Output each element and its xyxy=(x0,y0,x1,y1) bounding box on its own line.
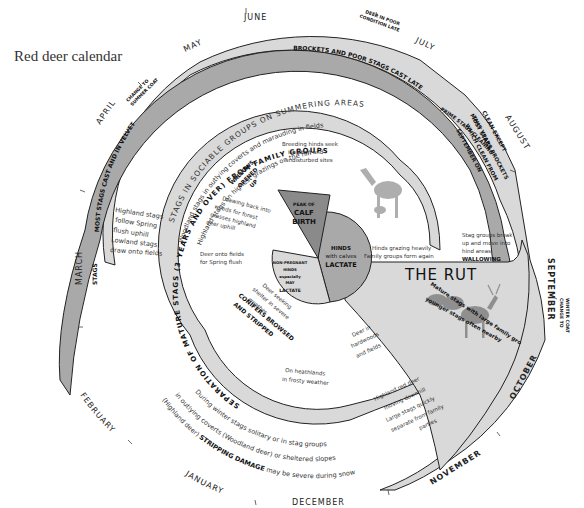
breeding-hinds: isolation and xyxy=(288,149,323,155)
peak-calf-label: BIRTH xyxy=(292,218,316,226)
hinds-lactate-label: HINDS xyxy=(331,245,351,251)
deer-poor-condition: DEER IN POOR CONDITION LATE xyxy=(359,8,403,33)
heathlands: On heathlands xyxy=(285,367,326,376)
month-february: FEBRUARY xyxy=(78,391,117,435)
rut-title: THE RUT xyxy=(404,266,477,284)
breeding-hinds: Breeding hinds seek xyxy=(282,141,339,148)
month-january: JANUARY xyxy=(183,469,225,496)
red-deer-calendar-diagram: JUNE JULY MAY APRIL MARCH FEBRUARY JANUA… xyxy=(0,0,584,508)
hinds-grazing: Hinds grazing heavily xyxy=(372,245,432,252)
month-september: SEPTEMBER xyxy=(546,258,555,321)
non-pregnant-label: HINDS xyxy=(283,267,297,272)
month-march: MARCH xyxy=(75,251,84,285)
stag-groups-break: Stag groups break xyxy=(462,232,513,239)
deer-onto-fields: Deer onto fields xyxy=(200,251,244,257)
heathlands: in frosty weather xyxy=(282,376,330,387)
hinds-lactate-label: LACTATE xyxy=(325,261,356,269)
peak-calf-label: PEAK OF xyxy=(293,202,315,207)
month-may: MAY xyxy=(182,37,204,53)
hind-with-calf-illustration xyxy=(360,168,402,218)
breeding-hinds: undisturbed sites xyxy=(285,157,333,163)
wallowing-label: WALLOWING xyxy=(462,256,501,262)
deer-onto-fields: for Spring flush xyxy=(200,259,243,266)
non-pregnant-label: MAY xyxy=(285,280,294,285)
month-december: DECEMBER xyxy=(292,498,345,507)
non-pregnant-label: especially xyxy=(279,274,301,279)
hinds-grazing: Family groups form again xyxy=(364,253,434,260)
month-june: JUNE xyxy=(243,13,267,22)
month-july: JULY xyxy=(413,35,436,52)
stags-label: STAGS xyxy=(91,263,98,285)
month-april: APRIL xyxy=(94,98,117,126)
month-august: AUGUST xyxy=(503,113,531,151)
peak-calf-label: CALF xyxy=(294,209,314,217)
hinds-lactate-label: with calves xyxy=(326,253,357,259)
change-winter-coat: CHANGE TO WINTER COAT xyxy=(559,298,570,334)
spring-stags-notes: Highland stags follow Spring flush uphil… xyxy=(110,206,165,258)
stag-groups-break: up and move into xyxy=(462,240,511,247)
central-pie xyxy=(272,190,372,304)
non-pregnant-label: LACTATE xyxy=(279,288,301,293)
stag-groups-break: hind areas xyxy=(462,248,491,254)
non-pregnant-label: NON-PREGNANT xyxy=(273,260,308,265)
